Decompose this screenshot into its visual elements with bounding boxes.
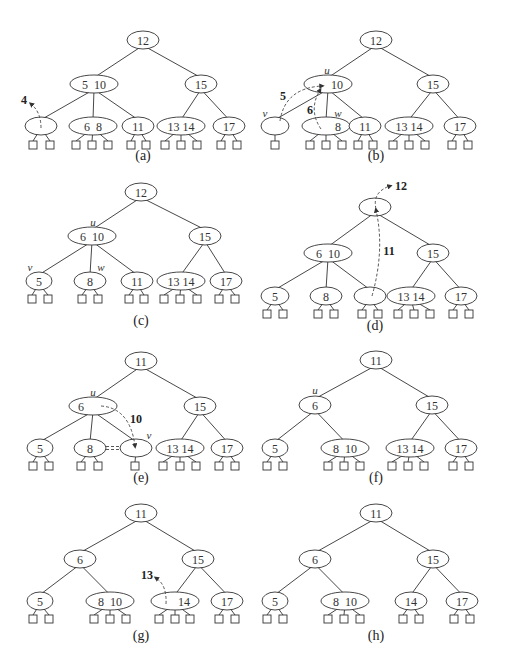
external-leaf-square [389,141,397,149]
tree-node: 12 [127,31,159,49]
external-leaf-square [94,295,102,303]
external-leaf-square [193,295,201,303]
external-leaf-square [77,462,85,470]
leaf-edge [188,289,197,295]
tree-node: 5 [27,439,53,457]
leaf-edge [187,456,196,462]
tree-edge [181,89,201,119]
external-leaf-square [231,615,239,623]
external-leaf-square [155,615,163,623]
tree-node: 14 [395,592,427,610]
tree-edge [326,258,328,289]
node-keys: 17 [454,120,466,134]
vertex-label: u [90,386,96,398]
tree-node: 5 [262,592,288,610]
leaf-edge [164,289,173,295]
node-keys: 13 14 [398,290,425,304]
tree-node: 6 8 [69,117,117,135]
node-keys: 13 14 [168,120,195,134]
external-leaf-square [279,615,287,623]
tree-node: 15 [189,227,221,245]
panel-e: 116 155813 141710uv(e) [27,352,243,486]
external-leaf-square [449,462,457,470]
tree-edge [328,45,376,77]
external-leaf-square [279,462,287,470]
tree-node [120,439,152,457]
external-leaf-square [159,462,167,470]
node-keys: 8 10 [333,442,357,456]
external-leaf-square [94,462,102,470]
external-leaf-square [388,462,396,470]
leaf-edge [328,456,337,462]
node-keys: 17 [456,595,468,609]
external-leaf-square [29,615,37,623]
external-leaf-square [465,310,473,318]
panel-caption: (f) [369,470,383,486]
vertex-label: w [334,107,342,119]
tree-edge [328,212,375,246]
node-keys: 14 [160,595,190,609]
external-leaf-square [215,615,223,623]
node-keys: 8 10 [333,595,357,609]
external-leaf-square [106,615,114,623]
tree-node: 15 [416,396,448,414]
node-keys: 6 [312,553,318,567]
node-keys: 11 [131,275,143,289]
tree-edge [94,89,138,119]
tree-node: 5 [27,592,53,610]
tree-node: 8 10 [86,592,134,610]
tree-node: 6 10 [68,227,116,245]
leaf-edge [94,609,103,615]
external-leaf-square [127,141,135,149]
vertex-label: v [28,261,33,273]
node-keys: 11 [370,507,382,521]
external-leaf-square [161,141,169,149]
external-leaf-square [263,615,271,623]
external-leaf-square [448,141,456,149]
panel-a: 125 10156 81113 14174(a) [21,31,245,164]
tree-node: 8 [302,117,350,135]
node-keys: 12 [370,34,382,48]
tree-edge [315,365,376,398]
tree-node: 11 [125,352,157,370]
key-move-arrow [372,210,380,296]
external-leaf-square [356,615,364,623]
moved-key-label: 11 [383,244,394,258]
external-leaf-square [186,615,194,623]
tree-edge [180,411,200,441]
node-keys: 11 [135,355,147,369]
node-keys: 5 [36,275,42,289]
tree-node: 11 [360,351,392,369]
node-keys: 17 [220,275,232,289]
external-leaf-square [449,310,457,318]
moved-key-label: 5 [280,89,286,103]
leaf-edge [165,134,174,141]
node-keys: 6 10 [316,247,340,261]
tree-node: 10 [304,75,352,93]
tree-edge [275,258,328,289]
leaf-edge [188,134,197,141]
tree-edge [141,197,205,229]
node-keys: 13 14 [167,442,194,456]
node-keys: 15 [199,230,211,244]
panel-c: 126 1015581113 1417uvw(c) [26,183,242,329]
leaf-edge [76,134,85,141]
panel-g: 1161558 10 141713(g) [27,504,243,644]
external-leaf-square [231,462,239,470]
tree-edge [90,241,92,274]
external-leaf-square [421,141,429,149]
tree-edge [433,89,460,119]
external-leaf-square [358,310,366,318]
tree-edge [200,411,227,441]
node-keys: 13 14 [396,120,423,134]
tree-edge [376,518,433,552]
node-keys: 8 [311,120,341,134]
node-keys: 15 [427,78,439,92]
vertex-label: v [147,429,152,441]
external-leaf-square [171,615,179,623]
leaf-edge [392,456,402,462]
tree-node: 13 14 [386,439,434,457]
node-keys: 8 [87,442,93,456]
tree-node: 11 [121,272,153,290]
external-leaf-square [465,462,473,470]
